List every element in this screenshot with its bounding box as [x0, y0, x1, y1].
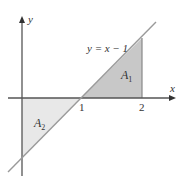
equation-label: y = x − 1 — [86, 42, 128, 54]
tick-label-2: 2 — [139, 101, 145, 113]
x-axis-label: x — [169, 82, 175, 94]
tick-label-1: 1 — [79, 101, 85, 113]
y-axis-label: y — [27, 13, 33, 25]
x-axis-arrow-icon — [169, 95, 176, 101]
y-axis-arrow-icon — [19, 16, 25, 23]
area-diagram: y x y = x − 1 1 2 A1 A2 — [0, 0, 179, 182]
